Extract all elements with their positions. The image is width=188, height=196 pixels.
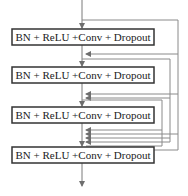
block-2-label: BN + ReLU +Conv + Dropout: [15, 69, 150, 81]
block-4: BN + ReLU +Conv + Dropout: [12, 147, 154, 163]
block-1-label: BN + ReLU +Conv + Dropout: [15, 31, 150, 43]
block-3: BN + ReLU +Conv + Dropout: [12, 107, 154, 123]
block-2: BN + ReLU +Conv + Dropout: [12, 67, 154, 83]
block-4-label: BN + ReLU +Conv + Dropout: [15, 149, 150, 161]
dense-block-diagram: BN + ReLU +Conv + Dropout BN + ReLU +Con…: [0, 0, 188, 196]
block-3-label: BN + ReLU +Conv + Dropout: [15, 109, 150, 121]
block-1: BN + ReLU +Conv + Dropout: [12, 29, 154, 45]
